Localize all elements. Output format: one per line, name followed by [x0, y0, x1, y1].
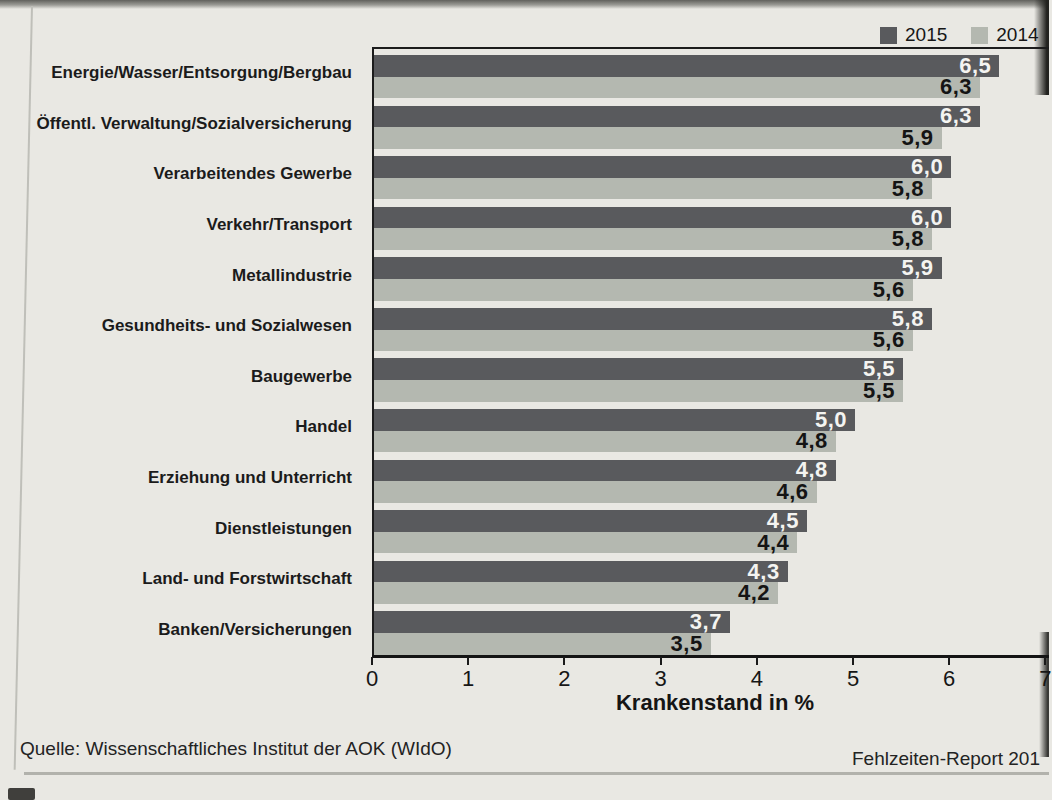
legend-label-2015: 2015 [905, 24, 947, 46]
bar-2014: 5,5 [374, 380, 903, 402]
x-tick [563, 657, 565, 665]
bar-value-label: 5,9 [901, 127, 933, 149]
bar-value-label: 4,6 [776, 481, 808, 503]
bar-value-label: 5,8 [892, 178, 924, 200]
bar-2015: 5,8 [374, 308, 932, 330]
bar-value-label: 3,7 [690, 611, 722, 633]
bar-2014: 5,9 [374, 127, 942, 149]
category-label: Baugewerbe [0, 351, 352, 402]
category-label: Banken/Versicherungen [0, 604, 352, 655]
x-tick [660, 657, 662, 665]
bar-2014: 5,6 [374, 279, 913, 301]
legend-swatch-2015 [880, 27, 897, 44]
bar-value-label: 5,6 [873, 279, 905, 301]
legend-item-2015: 2015 [880, 24, 947, 46]
x-tick-label: 0 [366, 668, 378, 690]
category-label: Öffentl. Verwaltung/Sozialversicherung [0, 99, 352, 150]
category-label: Verarbeitendes Gewerbe [0, 149, 352, 200]
category-label: Land- und Forstwirtschaft [0, 554, 352, 605]
bar-2015: 6,5 [374, 55, 999, 77]
category-label: Verkehr/Transport [0, 200, 352, 251]
x-tick-label: 1 [462, 668, 474, 690]
bar-value-label: 6,0 [911, 156, 943, 178]
legend-label-2014: 2014 [996, 24, 1038, 46]
bar-value-label: 5,6 [873, 329, 905, 351]
bar-2014: 4,6 [374, 481, 817, 503]
bar-2014: 5,8 [374, 178, 932, 200]
bar-2015: 5,9 [374, 257, 942, 279]
bar-2015: 6,0 [374, 207, 951, 229]
x-tick [852, 657, 854, 665]
x-tick-label: 7 [1039, 668, 1051, 690]
bar-value-label: 5,5 [863, 380, 895, 402]
bar-2015: 6,0 [374, 156, 951, 178]
footer-report-label: Fehlzeiten-Report 201 [852, 748, 1040, 770]
bar-2015: 4,5 [374, 510, 807, 532]
bar-value-label: 4,8 [796, 430, 828, 452]
legend-item-2014: 2014 [971, 24, 1038, 46]
bar-value-label: 4,5 [767, 510, 799, 532]
bar-2014: 5,8 [374, 228, 932, 250]
category-label: Energie/Wasser/Entsorgung/Bergbau [0, 48, 352, 99]
x-tick [467, 657, 469, 665]
bar-value-label: 6,3 [940, 105, 972, 127]
x-tick-label: 5 [847, 668, 859, 690]
bar-value-label: 5,8 [892, 228, 924, 250]
x-tick-label: 4 [751, 668, 763, 690]
bar-2015: 4,8 [374, 460, 836, 482]
x-tick-label: 6 [943, 668, 955, 690]
bar-2014: 6,3 [374, 77, 980, 99]
caption-marker [8, 788, 35, 800]
chart-legend: 2015 2014 [880, 24, 1039, 46]
source-note: Quelle: Wissenschaftliches Institut der … [20, 738, 452, 760]
bar-2014: 4,8 [374, 431, 836, 453]
bar-value-label: 4,2 [738, 582, 770, 604]
category-labels: Energie/Wasser/Entsorgung/BergbauÖffentl… [0, 48, 362, 655]
category-label: Erziehung und Unterricht [0, 453, 352, 504]
bottom-divider-rule [24, 772, 1049, 775]
bar-2015: 5,0 [374, 409, 855, 431]
bar-2015: 6,3 [374, 106, 980, 128]
x-tick-label: 2 [558, 668, 570, 690]
bar-value-label: 5,5 [863, 358, 895, 380]
bar-2014: 3,5 [374, 633, 711, 655]
category-label: Metallindustrie [0, 250, 352, 301]
x-tick-label: 3 [654, 668, 666, 690]
x-axis-title: Krankenstand in % [490, 690, 940, 716]
x-tick [756, 657, 758, 665]
bar-value-label: 6,3 [940, 76, 972, 98]
bar-2014: 5,6 [374, 330, 913, 352]
x-tick [948, 657, 950, 665]
category-label: Dienstleistungen [0, 503, 352, 554]
category-label: Gesundheits- und Sozialwesen [0, 301, 352, 352]
bar-2015: 4,3 [374, 561, 788, 583]
category-label: Handel [0, 402, 352, 453]
scan-edge-top [0, 0, 1049, 9]
x-tick [371, 657, 373, 665]
bar-2015: 3,7 [374, 611, 730, 633]
bar-value-label: 5,9 [901, 257, 933, 279]
x-tick [1044, 657, 1046, 665]
legend-swatch-2014 [971, 27, 988, 44]
bars-layer: 6,56,36,35,96,05,86,05,85,95,65,85,65,55… [374, 48, 1049, 655]
bar-value-label: 3,5 [671, 633, 703, 655]
bar-2015: 5,5 [374, 358, 903, 380]
bar-value-label: 4,4 [757, 532, 789, 554]
bar-2014: 4,4 [374, 532, 797, 554]
bar-2014: 4,2 [374, 582, 778, 604]
